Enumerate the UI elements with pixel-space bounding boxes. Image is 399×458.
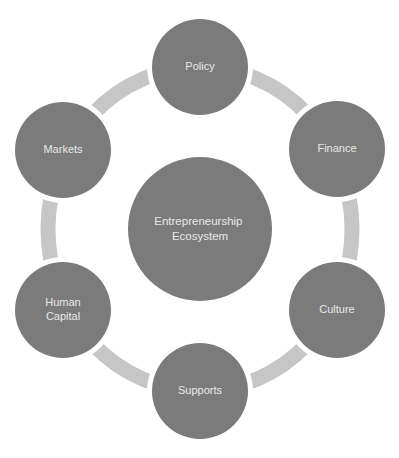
node-human-capital: HumanCapital bbox=[10, 257, 116, 363]
node-label: Supports bbox=[178, 384, 223, 396]
node-label: Policy bbox=[185, 60, 215, 72]
node-label: Culture bbox=[319, 303, 354, 315]
node-label-line: Human bbox=[45, 296, 80, 308]
node-label: Finance bbox=[317, 142, 356, 154]
node-finance: Finance bbox=[284, 96, 390, 202]
node-markets: Markets bbox=[10, 97, 116, 203]
center-label-line: Entrepreneurship bbox=[154, 215, 242, 227]
node-culture: Culture bbox=[284, 257, 390, 363]
node-label: Markets bbox=[43, 143, 83, 155]
node-label-line: Markets bbox=[43, 143, 83, 155]
node-label-line: Finance bbox=[317, 142, 356, 154]
node-label-line: Supports bbox=[178, 384, 223, 396]
node-label-line: Capital bbox=[46, 310, 80, 322]
node-policy: Policy bbox=[147, 14, 253, 120]
node-label-line: Culture bbox=[319, 303, 354, 315]
center-node: Entrepreneurship Ecosystem bbox=[128, 157, 272, 301]
node-supports: Supports bbox=[147, 338, 253, 444]
center-label-line: Ecosystem bbox=[172, 230, 228, 242]
entrepreneurship-ecosystem-diagram: PolicyFinanceCultureSupportsHumanCapital… bbox=[0, 0, 399, 458]
node-label-line: Policy bbox=[185, 60, 215, 72]
